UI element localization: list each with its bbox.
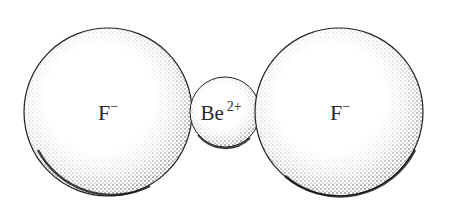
beryllium-ion: Be2+ [190,77,260,148]
fluoride-ion-right: F− [255,28,423,196]
ion-diagram: F− Be2+ F− [0,0,451,211]
fluoride-ion-left: F− [24,28,192,196]
